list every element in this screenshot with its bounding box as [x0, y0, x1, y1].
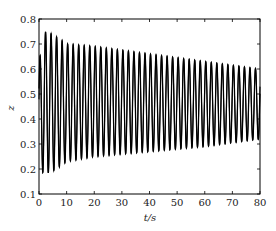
x-tick-label: 70 [226, 197, 239, 208]
x-tick-label: 40 [143, 197, 156, 208]
chart: 01020304050607080 0.10.20.30.40.50.60.70… [0, 0, 276, 231]
x-tick-label: 30 [116, 197, 129, 208]
y-tick-label: 0.2 [20, 164, 36, 175]
y-tick-label: 0.1 [20, 189, 36, 200]
x-tick-label: 0 [36, 197, 42, 208]
series-line-shadow [39, 32, 260, 173]
x-tick-label: 20 [88, 197, 101, 208]
x-axis-label: t/s [144, 212, 157, 223]
y-tick-label: 0.7 [20, 39, 36, 50]
y-axis-label: z [5, 105, 16, 112]
y-tick-label: 0.6 [20, 64, 36, 75]
y-tick-label: 0.8 [20, 14, 36, 25]
y-tick-label: 0.4 [20, 114, 36, 125]
x-tick-label: 50 [171, 197, 184, 208]
y-tick-label: 0.3 [20, 139, 36, 150]
x-tick-label: 10 [60, 197, 73, 208]
y-tick-label: 0.5 [20, 89, 36, 100]
series-group [39, 32, 260, 173]
x-tick-label: 80 [254, 197, 267, 208]
x-tick-label: 60 [198, 197, 211, 208]
